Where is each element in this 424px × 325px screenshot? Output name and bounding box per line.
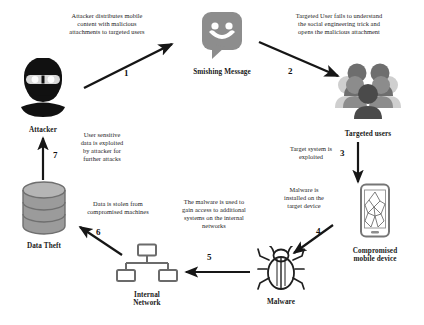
caption-step-7-line-4: further attacks [70,155,134,163]
caption-step-5: The malware is used to gain access to ad… [168,198,260,230]
caption-step-1-line-3: attachments to targeted users [44,28,170,36]
caption-step-1-line-1: Attacker distributes mobile [44,12,170,20]
node-internal-network: Internal Network [112,243,182,308]
caption-step-4: Malware is installed on the target devic… [272,186,336,210]
caption-step-5-line-4: networks [168,222,260,230]
smishing-attack-lifecycle-diagram: Attacker Smishing Message [0,0,424,325]
step-number-3: 3 [340,148,345,158]
node-label-internal-network-line2: Network [133,299,160,307]
caption-step-7-line-3: by attacker for [70,147,134,155]
arrow-step-1 [84,44,172,88]
node-attacker: Attacker [8,58,78,134]
caption-step-2-line-2: the social engineering trick and [266,20,412,28]
node-label-compromised-device-line1: Compromised [353,247,398,255]
node-label-targeted-users: Targeted users [345,130,391,138]
step-number-2: 2 [288,66,293,76]
step-number-5: 5 [207,252,212,262]
node-label-attacker: Attacker [29,126,57,134]
node-targeted-users: Targeted users [330,62,406,138]
node-data-theft: Data Theft [8,180,80,250]
step-number-7: 7 [53,150,58,160]
caption-step-1-line-2: content with malicious [44,20,170,28]
caption-step-3-line-1: Target system is [272,145,350,153]
caption-step-6: Data is stolen from compromised machines [74,200,162,216]
caption-step-2-line-3: opens the malicious attachment [266,28,412,36]
node-label-compromised-device-line2: mobile device [353,255,396,263]
database-cylinder-icon [18,180,70,240]
caption-step-2: Targeted User fails to understand the so… [266,12,412,36]
caption-step-1: Attacker distributes mobile content with… [44,12,170,36]
user-group-icon [333,62,403,128]
network-tree-icon [116,243,178,289]
node-label-malware: Malware [267,298,295,306]
step-number-4: 4 [316,226,321,236]
node-smishing-message: Smishing Message [176,10,268,76]
node-malware: Malware [248,246,314,306]
hooded-attacker-icon [15,58,71,124]
caption-step-2-line-1: Targeted User fails to understand [266,12,412,20]
node-label-data-theft: Data Theft [27,242,61,250]
caption-step-3: Target system is exploited [272,145,350,161]
caption-step-5-line-2: gain access to additional [168,206,260,214]
caption-step-3-line-2: exploited [272,153,350,161]
node-label-smishing-message: Smishing Message [193,68,251,76]
caption-step-7-line-1: User sensitive [70,131,134,139]
chat-bubble-smiley-icon [194,10,250,66]
step-number-6: 6 [96,227,101,237]
node-compromised-mobile-device: Compromised mobile device [330,183,420,264]
caption-step-7-line-2: data is exploited [70,139,134,147]
caption-step-6-line-1: Data is stolen from [74,200,162,208]
caption-step-5-line-1: The malware is used to [168,198,260,206]
bug-icon [255,246,307,296]
caption-step-4-line-3: target device [272,202,336,210]
caption-step-6-line-2: compromised machines [74,208,162,216]
arrow-step-2 [259,42,338,76]
caption-step-7: User sensitive data is exploited by atta… [70,131,134,163]
step-number-1: 1 [124,68,129,78]
cracked-smartphone-icon [355,183,395,245]
caption-step-4-line-2: installed on the [272,194,336,202]
node-label-internal-network-line1: Internal [134,291,160,299]
caption-step-5-line-3: systems on the internal [168,214,260,222]
caption-step-4-line-1: Malware is [272,186,336,194]
